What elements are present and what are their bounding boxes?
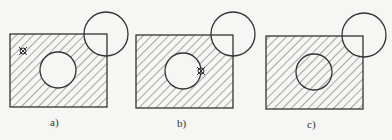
panel-c-label: c) xyxy=(307,118,316,130)
hatched-region xyxy=(136,35,233,108)
panel-c xyxy=(266,13,386,109)
panel-a-label: a) xyxy=(50,116,59,128)
hatched-region xyxy=(266,36,363,109)
panel-a xyxy=(10,12,128,107)
point-marker-icon xyxy=(197,67,205,75)
panel-b xyxy=(136,12,255,108)
panel-b-label: b) xyxy=(177,117,186,129)
point-marker-icon xyxy=(19,47,27,55)
hatched-region xyxy=(10,34,107,107)
outer-circle xyxy=(342,13,386,57)
